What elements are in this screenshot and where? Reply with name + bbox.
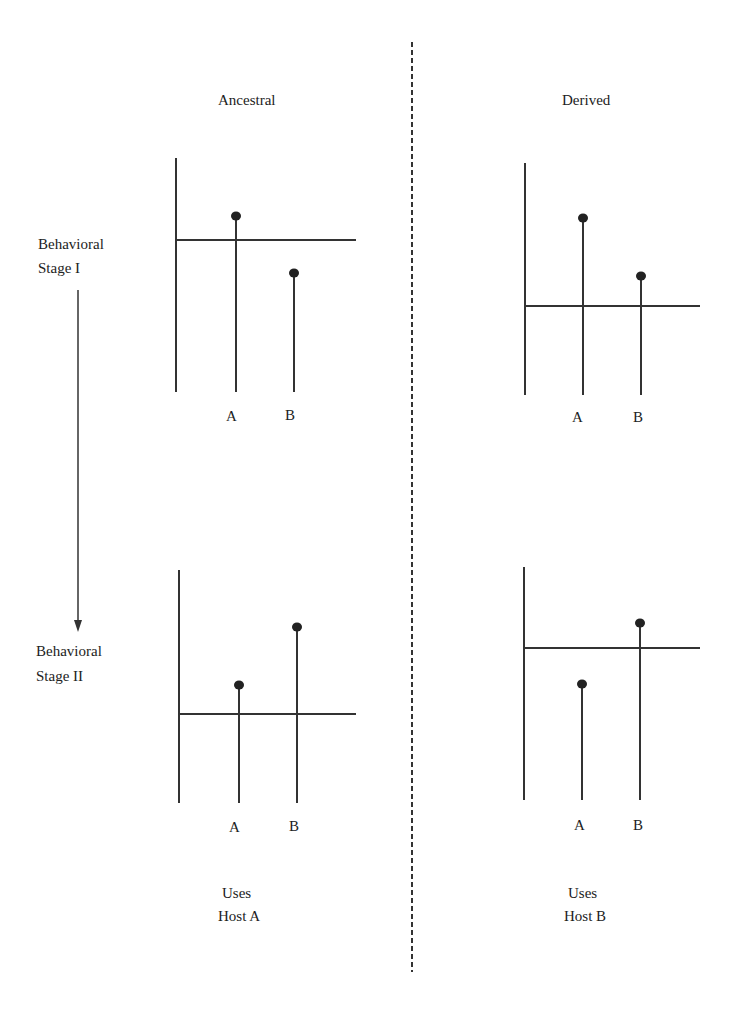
stage-arrow-icon	[74, 290, 82, 632]
bar-label-a: A	[572, 408, 583, 427]
column-title-ancestral: Ancestral	[218, 91, 275, 110]
column-title-derived: Derived	[562, 91, 610, 110]
stage2-label-line1: Behavioral	[36, 642, 102, 661]
bar-label-a: A	[574, 816, 585, 835]
panel-ancestral-stage2	[179, 570, 356, 803]
bar-label-a: A	[229, 818, 240, 837]
diagram-canvas	[0, 0, 740, 1013]
panel-derived-stage1	[525, 163, 700, 395]
bar-label-b: B	[289, 817, 299, 836]
stage2-label-line2: Stage II	[36, 667, 83, 686]
bar-label-b: B	[633, 816, 643, 835]
footer-left-line2: Host A	[218, 907, 260, 926]
panel-derived-stage2	[524, 567, 700, 800]
stage1-label-line1: Behavioral	[38, 235, 104, 254]
stage1-label-line2: Stage I	[38, 259, 80, 278]
bar-label-a: A	[226, 407, 237, 426]
panel-ancestral-stage1	[176, 158, 356, 392]
bar-label-b: B	[633, 408, 643, 427]
footer-right-line1: Uses	[568, 884, 597, 903]
footer-left-line1: Uses	[222, 884, 251, 903]
footer-right-line2: Host B	[564, 907, 606, 926]
bar-label-b: B	[285, 406, 295, 425]
